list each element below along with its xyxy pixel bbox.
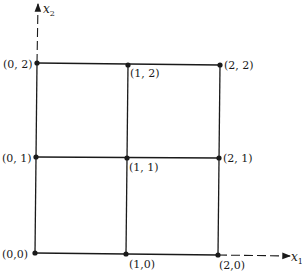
axes <box>37 4 290 256</box>
point-0-0 <box>32 250 37 255</box>
point-2-0 <box>215 252 220 257</box>
label-2-0: (2,0) <box>219 259 245 272</box>
label-1-0: (1,0) <box>129 258 155 271</box>
label-1-2: (1, 2) <box>130 67 160 80</box>
point-0-1 <box>33 154 38 159</box>
x1-axis-arrow <box>218 255 290 256</box>
x2-axis-arrow <box>37 4 38 63</box>
point-1-1 <box>124 155 129 160</box>
label-0-1: (0, 1) <box>2 152 32 165</box>
label-0-2: (0, 2) <box>3 58 33 71</box>
x2-axis-label: x2 <box>43 2 55 18</box>
point-2-1 <box>216 155 221 160</box>
label-2-1: (2, 1) <box>223 152 253 165</box>
lattice-diagram: x2 x1 (0,0) (1,0) (2,0) (0, 1) (1, 1) (2… <box>0 0 302 273</box>
x1-axis-label: x1 <box>291 250 302 266</box>
label-2-2: (2, 2) <box>224 59 254 72</box>
point-1-0 <box>123 251 128 256</box>
label-1-1: (1, 1) <box>129 161 159 174</box>
point-2-2 <box>217 62 222 67</box>
label-0-0: (0,0) <box>2 248 28 261</box>
point-0-2 <box>34 60 39 65</box>
